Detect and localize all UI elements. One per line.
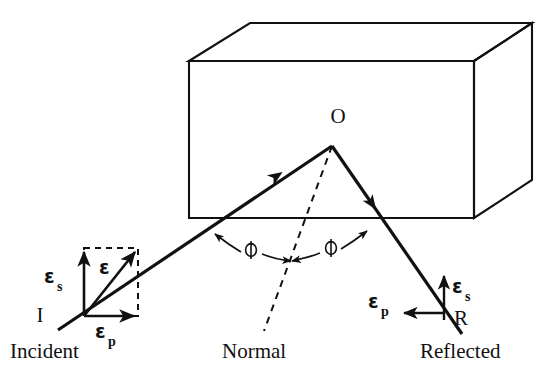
phi-glyph-right [326,239,337,257]
label-point-o: O [330,104,345,128]
reflected-ray [332,146,462,334]
incident-ray-line [58,146,332,330]
eps-p-incident-glyph: ε [95,320,106,342]
eps-p-reflected-glyph: ε [368,290,379,312]
label-eps-s-reflected: ε s [452,275,471,304]
eps-s-incident-subscript: s [57,279,63,294]
label-eps-resultant: ε [99,256,110,278]
optics-diagram-figure: O I R Incident Normal Reflected ε s ε p … [0,0,550,374]
eps-p-incident-subscript: p [108,334,116,349]
label-eps-p-reflected: ε p [368,290,389,319]
block-right-face [474,23,532,218]
label-point-i: I [37,303,44,327]
angle-right-arc-inner [292,253,320,261]
angle-marker-right [292,231,367,261]
label-eps-s-incident: ε s [44,265,63,294]
eps-s-reflected-subscript: s [465,289,471,304]
label-eps-p-incident: ε p [95,320,116,349]
label-incident-caption: Incident [10,339,79,363]
reflected-ray-line [332,146,462,334]
diagram-canvas: O I R Incident Normal Reflected ε s ε p … [0,0,550,374]
phi-glyph-left [246,241,257,259]
incident-ray [58,146,332,330]
block-top-face [189,23,532,61]
angle-left-arc-inner [262,254,291,261]
block-front-face [189,61,474,218]
label-point-r: R [454,306,468,330]
angle-right-arc-outer [341,231,367,249]
eps-s-reflected-glyph: ε [452,275,463,297]
label-reflected-caption: Reflected [420,339,501,363]
angle-left-arc-outer [215,234,241,252]
label-normal-caption: Normal [222,339,286,363]
eps-p-reflected-subscript: p [381,304,389,319]
angle-marker-left [215,234,291,261]
eps-s-incident-glyph: ε [44,265,55,287]
